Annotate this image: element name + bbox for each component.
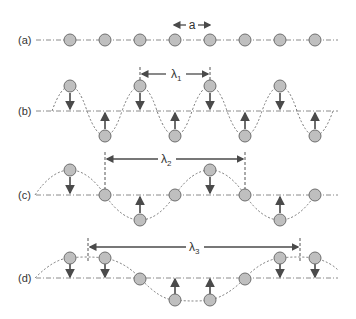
spacing-dimension: a (174, 18, 210, 32)
row-a: (a) a (18, 18, 338, 46)
row-label-a: (a) (18, 34, 31, 46)
row-c: (c) λ2 (18, 152, 338, 226)
lattice-wave-diagram: (a) a (b) (0, 0, 356, 319)
wavelength-dimension-1: λ1 (140, 67, 210, 83)
row-b: (b) λ1 (18, 67, 338, 142)
spacing-label: a (189, 18, 196, 32)
svg-text:λ3: λ3 (189, 240, 200, 256)
wavelength-subscript: 2 (167, 159, 172, 168)
wavelength-dimension-3: λ3 (88, 238, 300, 262)
atoms (64, 252, 321, 306)
row-label-c: (c) (18, 189, 31, 201)
wavelength-dimension-2: λ2 (105, 152, 245, 189)
wavelength-subscript: 1 (177, 74, 182, 83)
atoms (64, 34, 321, 46)
atoms (64, 80, 321, 142)
wavelength-subscript: 3 (195, 247, 200, 256)
displacement-arrows (70, 264, 315, 294)
svg-text:λ1: λ1 (171, 67, 182, 83)
row-label-d: (d) (18, 272, 31, 284)
row-d: (d) λ3 (18, 238, 338, 306)
atoms (64, 164, 321, 226)
svg-text:λ2: λ2 (161, 152, 172, 168)
row-label-b: (b) (18, 105, 31, 117)
wave-curve (35, 257, 338, 301)
